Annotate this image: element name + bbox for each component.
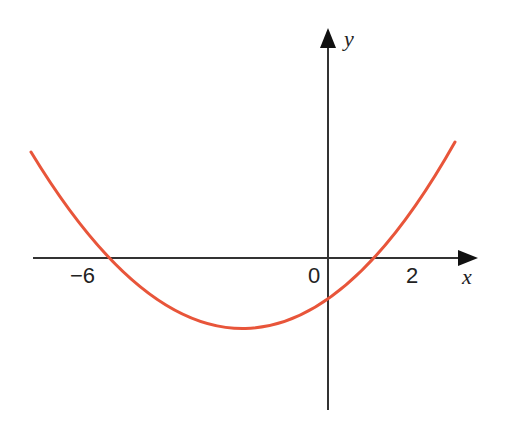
y-axis-label: y [342, 26, 354, 51]
tick-label-0: 0 [308, 263, 320, 288]
tick-label-2: 2 [406, 263, 418, 288]
x-axis-label: x [461, 264, 472, 289]
tick-label-neg6: −6 [70, 263, 95, 288]
graph-canvas: y x −6 0 2 [0, 0, 512, 424]
y-axis-arrow-icon [320, 28, 336, 48]
parabola-curve [31, 142, 455, 329]
